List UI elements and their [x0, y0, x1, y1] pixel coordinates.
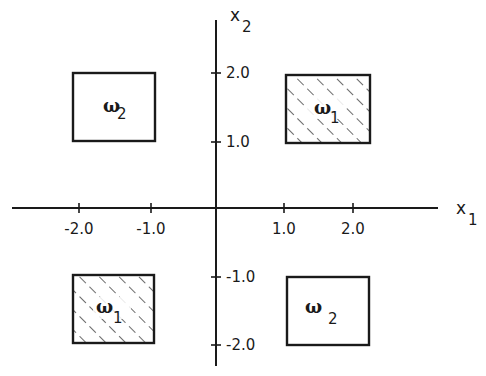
x1-axis-label: x 1: [456, 198, 478, 229]
x-tick-label: 2.0: [341, 220, 365, 238]
x1-label-sub: 1: [468, 211, 478, 229]
y-tick-label: -1.0: [226, 268, 255, 286]
region-class-sub: 2: [328, 310, 338, 328]
x1-label-base: x: [456, 198, 466, 218]
y-tick-label: -2.0: [226, 336, 255, 354]
x-tick-label: 1.0: [272, 220, 296, 238]
region-class-symbol: ω: [305, 296, 322, 317]
region-omega1-bottom-left: ω 1: [73, 275, 154, 343]
region-class-symbol: ω: [314, 97, 331, 118]
region-omega2-bottom-right: ω 2: [287, 277, 369, 345]
region-class-sub: 1: [113, 309, 123, 327]
y-tick-label: 2.0: [226, 64, 250, 82]
diagram-canvas: -2.0 -1.0 1.0 2.0 2.0 1.0 -1.0 -2.0 x 1 …: [0, 0, 486, 376]
x2-label-sub: 2: [242, 18, 252, 36]
region-omega1-top-right: ω 1: [286, 75, 370, 143]
region-omega2-top-left: ω 2: [73, 73, 155, 141]
region-class-symbol: ω: [96, 296, 113, 317]
x2-label-base: x: [230, 5, 240, 25]
x-tick-label: -1.0: [136, 220, 165, 238]
x-tick-label: -2.0: [64, 220, 93, 238]
region-class-sub: 1: [330, 109, 340, 127]
region-class-sub: 2: [117, 105, 127, 123]
y-tick-label: 1.0: [226, 133, 250, 151]
x2-axis-label: x 2: [230, 5, 252, 36]
